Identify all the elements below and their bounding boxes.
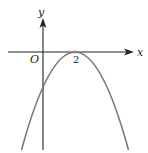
vertex-x-label: 2 [73, 54, 79, 65]
x-axis-label: x [137, 46, 144, 59]
diagram-canvas: y x O 2 [0, 0, 148, 153]
origin-label: O [30, 53, 39, 66]
y-axis-label: y [37, 6, 45, 19]
parabola-curve [22, 52, 129, 150]
parabola-diagram: y x O 2 [0, 0, 148, 153]
